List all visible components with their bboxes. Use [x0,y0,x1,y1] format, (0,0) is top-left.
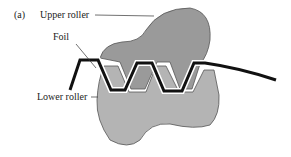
roller-diagram [0,0,291,157]
upper-roller-label: Upper roller [40,10,89,20]
panel-label: (a) [14,10,25,20]
lower-roller-label: Lower roller [37,92,87,102]
upper-roller-leader [95,15,154,16]
foil-label: Foil [53,32,69,42]
